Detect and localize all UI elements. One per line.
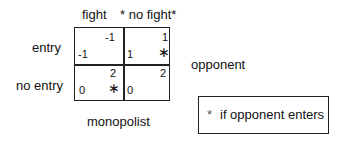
equilibrium-star-icon: ∗ [158, 44, 170, 60]
payoff-monopolist-noentry-nofight: 0 [127, 84, 133, 96]
row-header-entry: entry [32, 40, 61, 55]
payoff-monopolist-entry-fight: -1 [78, 48, 88, 60]
legend-text: if opponent enters [220, 107, 324, 122]
payoff-opponent-entry-fight: -1 [105, 31, 115, 43]
payoff-opponent-noentry-nofight: 2 [160, 67, 166, 79]
payoff-opponent-entry-nofight: 1 [162, 31, 168, 43]
matrix-divider-horizontal [75, 64, 169, 66]
equilibrium-star-icon: ∗ [108, 80, 120, 96]
payoff-matrix: -1 -1 1 1 ∗ 2 0 ∗ 2 0 [74, 27, 170, 101]
legend-star-icon: * [207, 107, 212, 122]
payoff-monopolist-noentry-fight: 0 [79, 84, 85, 96]
payoff-opponent-noentry-fight: 2 [110, 67, 116, 79]
row-header-no-entry: no entry [16, 78, 63, 93]
opponent-label: opponent [191, 57, 245, 72]
column-header-no-fight: * no fight* [120, 7, 176, 22]
column-header-fight: fight [82, 7, 107, 22]
monopolist-label: monopolist [87, 114, 150, 129]
payoff-monopolist-entry-nofight: 1 [127, 48, 133, 60]
